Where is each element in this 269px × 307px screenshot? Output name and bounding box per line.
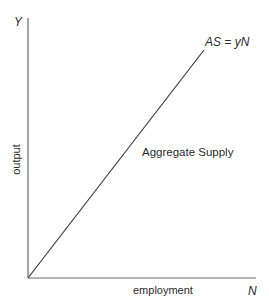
aggregate-supply-curve [28,50,204,278]
x-axis-symbol: N [248,285,257,297]
curve-name-label: Aggregate Supply [142,147,233,159]
curve-equation-label: AS = yN [205,36,249,48]
x-axis-label: employment [133,285,193,296]
y-axis-label: output [11,140,22,180]
y-axis-symbol: Y [14,16,22,28]
